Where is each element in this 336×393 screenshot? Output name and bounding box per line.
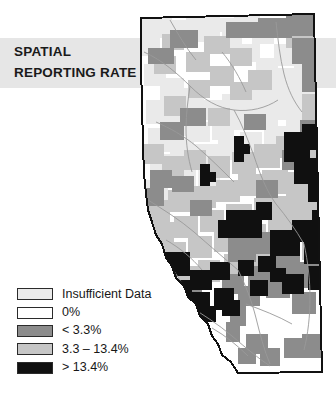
legend-swatch-under-3-3 xyxy=(17,325,53,337)
legend-label-3-3-to-13-4: 3.3 – 13.4% xyxy=(62,343,129,356)
legend-label-insufficient-data: Insufficient Data xyxy=(62,288,151,301)
legend-swatch-over-13-4 xyxy=(17,362,53,374)
legend-swatch-3-3-to-13-4 xyxy=(17,343,53,355)
legend-swatch-zero-percent xyxy=(17,307,53,319)
figure-canvas: SPATIAL REPORTING RATE xyxy=(0,0,336,393)
legend-item-over-13-4: > 13.4% xyxy=(17,359,167,377)
legend-item-insufficient-data: Insufficient Data xyxy=(17,285,167,303)
legend-item-3-3-to-13-4: 3.3 – 13.4% xyxy=(17,340,167,358)
legend-item-under-3-3: < 3.3% xyxy=(17,322,167,340)
legend-label-under-3-3: < 3.3% xyxy=(62,324,101,337)
legend-item-zero-percent: 0% xyxy=(17,303,167,321)
legend-swatch-insufficient-data xyxy=(17,288,53,300)
legend-label-over-13-4: > 13.4% xyxy=(62,361,108,374)
legend-label-zero-percent: 0% xyxy=(62,306,80,319)
map-legend: Insufficient Data 0% < 3.3% 3.3 – 13.4% … xyxy=(17,285,167,377)
